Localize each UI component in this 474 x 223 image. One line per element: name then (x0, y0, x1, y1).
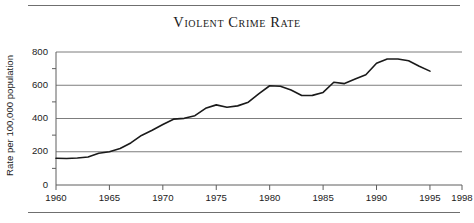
y-tick-label: 800 (14, 46, 48, 57)
x-tick-label: 1985 (303, 192, 343, 203)
figure-container: Violent Crime Rate Rate per 100,000 popu… (0, 0, 474, 223)
gridlines (56, 52, 462, 152)
chart-plot (0, 0, 474, 223)
y-tick-label: 0 (14, 179, 48, 190)
x-ticks (56, 185, 462, 190)
x-tick-label: 1980 (250, 192, 290, 203)
x-tick-label: 1998 (442, 192, 474, 203)
data-line-violent-crime-rate (56, 59, 430, 159)
y-minor-ticks (52, 69, 56, 169)
x-tick-label: 1970 (143, 192, 183, 203)
x-tick-label: 1960 (36, 192, 76, 203)
y-tick-label: 600 (14, 79, 48, 90)
x-tick-label: 1965 (89, 192, 129, 203)
y-tick-label: 400 (14, 112, 48, 123)
bottom-divider-rule (28, 212, 460, 213)
x-tick-label: 1990 (357, 192, 397, 203)
y-tick-label: 200 (14, 145, 48, 156)
x-tick-label: 1975 (196, 192, 236, 203)
